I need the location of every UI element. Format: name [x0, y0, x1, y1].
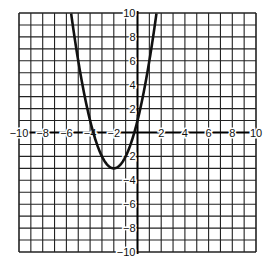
coordinate-plane: −10−8−6−4−2246810108642−2−4−6−8−10 [0, 0, 266, 260]
y-tick-label: −10 [117, 246, 136, 258]
x-tick-label: 8 [229, 127, 235, 139]
x-tick-label: 4 [182, 127, 188, 139]
y-tick-label: 6 [129, 55, 135, 67]
y-tick-label: −8 [123, 222, 136, 234]
y-tick-label: −4 [123, 174, 136, 186]
x-tick-label: 2 [158, 127, 164, 139]
x-tick-label: −8 [36, 127, 49, 139]
y-tick-label: −6 [123, 198, 136, 210]
x-tick-label: 6 [206, 127, 212, 139]
x-tick-label: −2 [108, 127, 121, 139]
x-tick-label: 10 [250, 127, 262, 139]
x-tick-label: −10 [10, 127, 29, 139]
y-tick-label: 4 [129, 79, 135, 91]
y-tick-label: 10 [123, 7, 135, 19]
y-tick-label: 8 [129, 31, 135, 43]
y-tick-label: 2 [129, 103, 135, 115]
x-tick-label: −6 [60, 127, 73, 139]
